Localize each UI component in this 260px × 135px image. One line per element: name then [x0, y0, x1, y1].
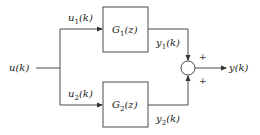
y2-label: y2(k) [155, 113, 180, 127]
u2-label: u2(k) [68, 88, 93, 102]
summing-junction [181, 61, 195, 75]
sign-upper: + [199, 52, 207, 62]
u1-label: u1(k) [68, 12, 93, 26]
output-label: y(k) [228, 62, 249, 73]
y2-arrow [148, 76, 188, 105]
input-label: u(k) [9, 62, 29, 73]
y1-label: y1(k) [155, 37, 180, 51]
sign-lower: + [199, 76, 207, 86]
block-diagram: u(k) u1(k) G1(z) y1(k) + u2(k) G2(z) y2(… [0, 0, 260, 135]
